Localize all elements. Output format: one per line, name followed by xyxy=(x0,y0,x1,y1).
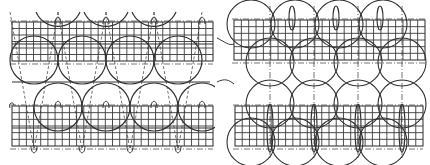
yarn-loop xyxy=(79,146,85,153)
dashed-zigzag xyxy=(10,12,202,150)
yarn-loop xyxy=(103,101,109,108)
yarn-loop xyxy=(175,146,181,153)
right-diagram-panel xyxy=(215,0,430,165)
right-mesh-diagram xyxy=(215,0,430,165)
left-diagram-panel xyxy=(0,0,215,165)
yarn-circle xyxy=(178,83,215,131)
yarn-circle xyxy=(58,36,106,84)
yarn-circle xyxy=(154,36,202,84)
yarn-circle xyxy=(10,36,58,84)
yarn-loop xyxy=(199,101,205,108)
yarn-loop xyxy=(151,101,157,108)
yarn-loop xyxy=(31,146,37,153)
yarn-end xyxy=(217,38,234,45)
yarn-end xyxy=(217,80,234,84)
yarn-arc xyxy=(132,12,176,26)
yarn-circle xyxy=(106,36,154,84)
yarn-loop xyxy=(127,146,133,153)
yarn-arc xyxy=(36,12,80,26)
left-mesh-diagram xyxy=(0,0,215,165)
yarn-loop xyxy=(55,101,61,108)
mesh-grid xyxy=(232,19,425,63)
